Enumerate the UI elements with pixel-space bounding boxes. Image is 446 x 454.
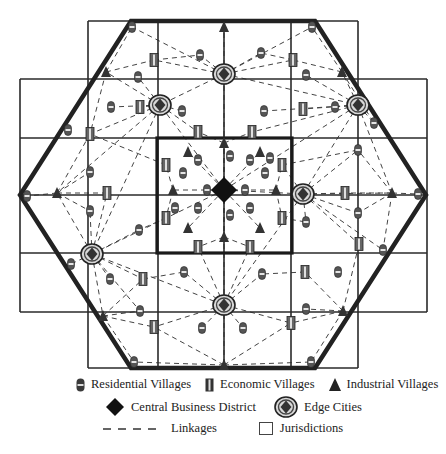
linkage-line — [224, 362, 311, 365]
residential-village-icon — [199, 323, 206, 334]
linkage-line — [57, 172, 90, 193]
residential-village-icon — [107, 274, 114, 285]
residential-village-icon — [180, 168, 187, 179]
legend-residential: Residential Villages — [76, 377, 191, 392]
industrial-village-icon — [219, 231, 229, 242]
residential-village-icon — [303, 70, 310, 81]
residential-village-icon — [87, 206, 94, 217]
linkage-line — [132, 27, 224, 74]
legend-edge-cities: Edge Cities — [274, 396, 362, 418]
economic-village-icon — [194, 241, 202, 254]
legend: Residential Villages Economic Villages I… — [0, 372, 446, 454]
legend-row-2: Central Business District Edge Cities — [105, 396, 376, 418]
economic-village-icon — [86, 128, 94, 141]
linkage-line — [262, 272, 305, 274]
residential-village-icon — [76, 378, 85, 392]
economic-village-icon — [103, 187, 111, 200]
legend-edge-cities-label: Edge Cities — [304, 400, 362, 415]
legend-economic-label: Economic Villages — [220, 377, 314, 392]
linkage-line — [305, 272, 343, 311]
residential-village-icon — [303, 304, 310, 315]
industrial-village-icon — [329, 378, 341, 391]
residential-village-icon — [371, 118, 378, 129]
residential-village-icon — [129, 22, 136, 33]
economic-village-icon — [301, 266, 309, 279]
linkage-line — [134, 362, 224, 365]
economic-village-icon — [355, 238, 363, 251]
economic-village-icon — [278, 212, 286, 225]
linkage-line — [311, 311, 343, 362]
economic-village-icon — [205, 378, 214, 392]
economic-village-icon — [136, 101, 144, 114]
residential-village-icon — [195, 203, 202, 214]
economic-village-icon — [299, 103, 307, 116]
industrial-village-icon — [183, 146, 193, 157]
linkage-line — [392, 193, 418, 194]
economic-village-icon — [287, 317, 295, 330]
residential-village-icon — [267, 153, 274, 164]
residential-village-icon — [380, 245, 387, 256]
residential-village-icon — [197, 50, 204, 61]
cbd-diamond-icon — [105, 397, 125, 417]
linkage-line — [261, 53, 293, 60]
economic-village-icon — [139, 273, 147, 286]
edge-city-icon — [81, 244, 103, 264]
residential-village-icon — [137, 306, 144, 317]
residential-village-icon — [131, 357, 138, 368]
economic-village-icon — [162, 212, 170, 225]
edge-city-icon — [292, 184, 314, 204]
edge-city-icon — [213, 64, 235, 84]
residential-village-icon — [204, 185, 211, 196]
linkage-line — [312, 27, 342, 72]
jurisdiction-square-icon — [259, 422, 274, 436]
residential-village-icon — [247, 155, 254, 166]
residential-village-icon — [415, 189, 422, 200]
residential-village-icon — [181, 267, 188, 278]
residential-village-icon — [262, 168, 269, 179]
legend-jurisdictions-label: Jurisdictions — [280, 421, 343, 436]
industrial-village-icon — [255, 146, 265, 157]
legend-industrial-label: Industrial Villages — [347, 377, 439, 392]
economic-village-icon — [246, 241, 254, 254]
residential-village-icon — [332, 102, 339, 113]
linkage-line — [143, 272, 184, 279]
legend-cbd: Central Business District — [105, 397, 256, 417]
legend-industrial: Industrial Villages — [329, 377, 439, 392]
linkage-line — [224, 323, 291, 365]
residential-village-icon — [65, 125, 72, 136]
economic-village-icon — [150, 321, 158, 334]
residential-village-icon — [309, 22, 316, 33]
residential-village-icon — [108, 102, 115, 113]
edge-city-icon — [149, 95, 171, 115]
linkage-line — [106, 60, 154, 72]
linkage-line — [264, 105, 358, 111]
edge-city-icon — [347, 95, 369, 115]
residential-village-icon — [68, 259, 75, 270]
residential-village-icon — [258, 48, 265, 59]
economic-village-icon — [289, 54, 297, 67]
residential-village-icon — [303, 217, 310, 228]
edge-city-icon — [213, 295, 235, 315]
linkage-line — [154, 327, 224, 365]
linkage-line — [154, 55, 200, 60]
legend-residential-label: Residential Villages — [91, 377, 191, 392]
residential-village-icon — [136, 225, 143, 236]
linkage-line — [57, 105, 160, 193]
economic-village-icon — [150, 54, 158, 67]
urban-structure-diagram — [0, 0, 446, 372]
economic-village-icon — [278, 159, 286, 172]
linkage-line — [303, 194, 383, 250]
linkage-line — [92, 105, 160, 254]
residential-village-icon — [240, 323, 247, 334]
linkage-line — [103, 316, 154, 327]
residential-village-icon — [179, 106, 186, 117]
linkage-line — [224, 27, 312, 74]
residential-village-icon — [227, 210, 234, 221]
residential-village-icon — [355, 145, 362, 156]
linkage-line — [306, 309, 343, 311]
linkage-line — [358, 150, 392, 193]
legend-linkages-label: Linkages — [171, 421, 217, 436]
legend-row-1: Residential Villages Economic Villages I… — [76, 377, 446, 392]
residential-village-icon — [261, 106, 268, 117]
economic-village-icon — [194, 126, 202, 139]
